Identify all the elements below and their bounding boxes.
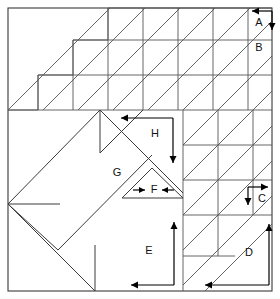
label-d: D [245, 246, 253, 258]
label-f: F [151, 183, 158, 195]
label-e: E [145, 244, 152, 256]
dimension-arrows [121, 11, 272, 285]
arrow-d [205, 224, 269, 285]
label-h: H [151, 127, 159, 139]
label-c: C [258, 192, 266, 204]
label-a: A [255, 16, 263, 28]
label-b: B [255, 41, 262, 53]
dissection-figure: A B C D E F G H [0, 0, 280, 299]
top-grid-block [8, 8, 272, 110]
label-g: G [113, 166, 122, 178]
diagram-canvas: A B C D E F G H [0, 0, 280, 299]
